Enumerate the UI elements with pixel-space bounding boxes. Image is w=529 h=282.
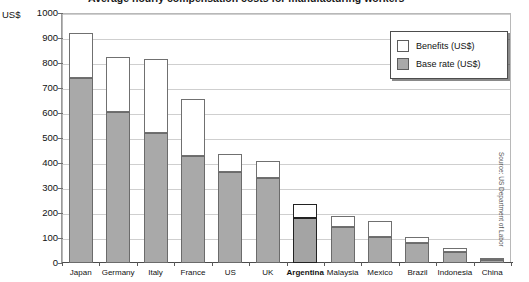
bar-segment-base-rate-germany xyxy=(106,112,130,263)
x-axis-label-germany: Germany xyxy=(99,268,136,277)
x-axis-label-japan: Japan xyxy=(62,268,99,277)
y-tick-label-900: 900 xyxy=(18,33,58,43)
legend-item-benefits: Benefits (US$) xyxy=(397,37,501,55)
bar-segment-benefits-japan xyxy=(69,33,93,78)
bar-segment-base-rate-indonesia xyxy=(443,252,467,263)
legend-label-base-rate: Base rate (US$) xyxy=(416,59,481,69)
x-axis-label-argentina: Argentina xyxy=(287,268,324,277)
bar-segment-benefits-france xyxy=(181,99,205,155)
x-tick-end xyxy=(511,262,512,266)
x-axis-label-china: China xyxy=(474,268,511,277)
x-tick-6 xyxy=(287,262,288,266)
bar-segment-base-rate-argentina xyxy=(293,218,317,263)
bar-segment-base-rate-china xyxy=(480,260,504,263)
x-axis-label-mexico: Mexico xyxy=(361,268,398,277)
x-tick-9 xyxy=(399,262,400,266)
bar-segment-base-rate-uk xyxy=(256,178,280,263)
bar-segment-base-rate-italy xyxy=(144,133,168,263)
bar-malaysia xyxy=(331,216,355,264)
y-axis: 1000 900 800 700 600 500 400 300 200 100… xyxy=(10,0,58,282)
x-tick-7 xyxy=(324,262,325,266)
y-tick-label-0: 0 xyxy=(18,258,58,268)
bar-france xyxy=(181,99,205,263)
x-tick-4 xyxy=(212,262,213,266)
source-note: Source: US Department of Labor xyxy=(498,152,505,247)
bar-mexico xyxy=(368,221,392,264)
y-tick-label-800: 800 xyxy=(18,58,58,68)
bar-segment-benefits-italy xyxy=(144,59,168,133)
y-tick-label-300: 300 xyxy=(18,183,58,193)
y-tick-label-700: 700 xyxy=(18,83,58,93)
bar-segment-base-rate-brazil xyxy=(405,243,429,263)
bar-segment-benefits-argentina xyxy=(293,204,317,218)
bar-segment-base-rate-japan xyxy=(69,78,93,263)
bar-segment-benefits-mexico xyxy=(368,221,392,237)
legend-swatch-base-rate-icon xyxy=(397,58,409,70)
x-axis-label-us: US xyxy=(212,268,249,277)
bar-italy xyxy=(144,59,168,263)
x-tick-0 xyxy=(62,262,63,266)
bar-china xyxy=(480,259,504,263)
legend-swatch-benefits-icon xyxy=(397,40,409,52)
x-tick-8 xyxy=(361,262,362,266)
bar-segment-benefits-germany xyxy=(106,57,130,112)
bar-segment-base-rate-us xyxy=(218,172,242,263)
chart-title: Average hourly compensation costs for ma… xyxy=(88,0,404,4)
legend: Benefits (US$) Base rate (US$) xyxy=(390,31,508,79)
chart-title-clipped: Average hourly compensation costs for ma… xyxy=(0,0,529,7)
x-tick-11 xyxy=(474,262,475,266)
y-tick-label-600: 600 xyxy=(18,108,58,118)
y-tick-label-1000: 1000 xyxy=(18,8,58,18)
x-tick-5 xyxy=(249,262,250,266)
bar-japan xyxy=(69,33,93,263)
legend-label-benefits: Benefits (US$) xyxy=(416,41,475,51)
bar-germany xyxy=(106,57,130,263)
bar-segment-benefits-uk xyxy=(256,161,280,179)
bar-uk xyxy=(256,161,280,264)
legend-item-base-rate: Base rate (US$) xyxy=(397,55,501,73)
x-axis-label-brazil: Brazil xyxy=(399,268,436,277)
x-axis-label-malaysia: Malaysia xyxy=(324,268,361,277)
bar-segment-base-rate-mexico xyxy=(368,237,392,263)
bar-us xyxy=(218,154,242,263)
x-tick-2 xyxy=(137,262,138,266)
bar-segment-benefits-us xyxy=(218,154,242,172)
bar-segment-benefits-malaysia xyxy=(331,216,355,227)
y-tick-label-400: 400 xyxy=(18,158,58,168)
bar-brazil xyxy=(405,237,429,263)
bar-segment-base-rate-france xyxy=(181,156,205,264)
x-axis-label-indonesia: Indonesia xyxy=(436,268,473,277)
x-tick-3 xyxy=(174,262,175,266)
y-tick-label-500: 500 xyxy=(18,133,58,143)
bar-chart: Average hourly compensation costs for ma… xyxy=(0,0,529,282)
y-tick-label-200: 200 xyxy=(18,208,58,218)
x-axis-label-france: France xyxy=(174,268,211,277)
bar-indonesia xyxy=(443,248,467,263)
x-axis-label-italy: Italy xyxy=(137,268,174,277)
bar-segment-base-rate-malaysia xyxy=(331,227,355,263)
y-tick-label-100: 100 xyxy=(18,233,58,243)
x-tick-10 xyxy=(436,262,437,266)
bar-argentina xyxy=(293,204,317,263)
x-axis-label-uk: UK xyxy=(249,268,286,277)
x-tick-1 xyxy=(99,262,100,266)
